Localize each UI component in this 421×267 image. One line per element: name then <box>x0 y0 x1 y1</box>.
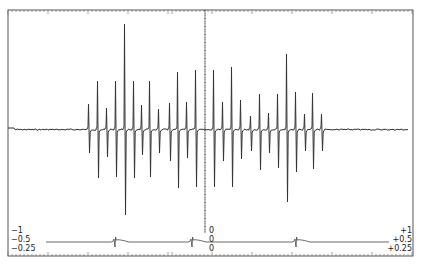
scale-label-right-1: +1 <box>400 227 412 235</box>
spectrum-trace <box>8 24 408 215</box>
plot-frame <box>8 10 413 256</box>
scale-label-center-2: 0 <box>209 236 214 244</box>
scale-label-center-1: 0 <box>209 227 214 235</box>
scale-label-left-2: −0.5 <box>11 236 30 244</box>
scale-label-right-3: +0.25 <box>387 245 412 253</box>
scale-label-right-2: +0.5 <box>393 236 412 244</box>
scale-label-center-3: 0 <box>209 245 214 253</box>
reference-trace <box>46 237 389 247</box>
axis-ticks <box>8 10 412 256</box>
scale-label-left-3: −0.25 <box>11 245 36 253</box>
scale-label-left-1: −1 <box>11 227 23 235</box>
